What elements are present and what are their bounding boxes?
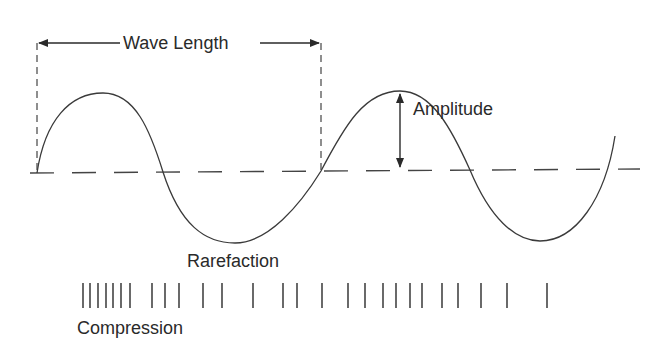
rarefaction-label: Rarefaction — [187, 251, 279, 271]
compression-label: Compression — [77, 318, 183, 338]
amplitude-label: Amplitude — [413, 99, 493, 119]
sine-wave-curve — [37, 91, 615, 243]
equilibrium-dashed-line — [30, 169, 640, 173]
wave-length-label: Wave Length — [123, 33, 228, 53]
compression-lines-group — [83, 283, 547, 308]
sound-wave-diagram: Wave Length Amplitude Rarefaction Compre… — [0, 0, 662, 356]
